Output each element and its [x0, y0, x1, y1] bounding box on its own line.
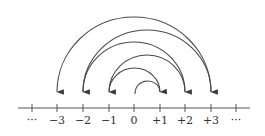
label-plus-2: +2 — [177, 114, 193, 127]
number-line-diagram: ··· −3 −2 −1 0 +1 +2 +3 ··· — [0, 0, 265, 136]
label-left-ellipsis: ··· — [27, 114, 38, 127]
label-minus-1: −1 — [101, 114, 117, 127]
label-zero: 0 — [131, 114, 138, 127]
arc-0-to-plus-1 — [135, 81, 160, 94]
label-minus-2: −2 — [75, 114, 91, 127]
arc-plus-3-to-minus-3 — [57, 17, 211, 92]
axis-labels: ··· −3 −2 −1 0 +1 +2 +3 ··· — [27, 114, 242, 127]
arc-plus-2-to-minus-2 — [83, 42, 185, 92]
jump-arcs — [57, 17, 211, 94]
label-plus-1: +1 — [152, 114, 168, 127]
arc-plus-1-to-minus-1 — [109, 68, 160, 92]
arc-minus-2-to-plus-3 — [83, 30, 211, 92]
label-plus-3: +3 — [203, 114, 219, 127]
label-minus-3: −3 — [49, 114, 65, 127]
label-right-ellipsis: ··· — [231, 114, 242, 127]
